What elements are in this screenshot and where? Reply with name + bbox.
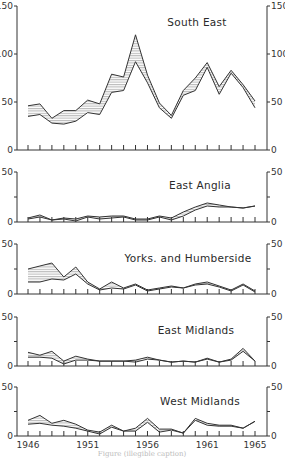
upper-series-line: [28, 203, 255, 220]
y-tick-label-right: 0: [271, 217, 277, 227]
y-tick-label-right: 50: [271, 97, 283, 107]
x-tick-label: 1956: [136, 440, 159, 450]
y-tick-label-left: 0: [7, 145, 13, 155]
x-tick-label: 1961: [196, 440, 219, 450]
y-tick-label-right: 50: [271, 382, 283, 392]
y-tick-label-right: 0: [271, 361, 277, 371]
panel-title: South East: [167, 16, 227, 28]
panel-east-midlands: 005050East Midlands: [2, 312, 283, 371]
y-tick-label-right: 100: [271, 49, 285, 59]
x-axis-year-labels: 19461951195619611965: [17, 440, 267, 450]
y-tick-label-right: 50: [271, 167, 283, 177]
y-tick-label-left: 50: [2, 167, 14, 177]
upper-series-line: [28, 35, 255, 119]
figure-caption: Figure (illegible caption): [98, 450, 187, 458]
y-tick-label-left: 50: [2, 97, 14, 107]
panel-south-east: 005050100100150150South East: [0, 1, 285, 155]
y-tick-label-right: 0: [271, 289, 277, 299]
y-tick-label-right: 150: [271, 1, 285, 11]
y-tick-label-left: 0: [7, 289, 13, 299]
y-tick-label-left: 0: [7, 431, 13, 441]
panel-yorks-and-humberside: 005050Yorks. and Humberside: [2, 239, 283, 299]
panel-title: Yorks. and Humberside: [123, 252, 251, 264]
x-tick-label: 1946: [17, 440, 40, 450]
y-tick-label-right: 0: [271, 431, 277, 441]
y-tick-label-left: 150: [0, 1, 13, 11]
panel-west-midlands: 005050West Midlands: [2, 382, 283, 441]
x-tick-label: 1965: [244, 440, 267, 450]
panel-title: East Midlands: [158, 324, 235, 336]
panel-east-anglia: 005050East Anglia: [2, 167, 283, 227]
y-tick-label-left: 0: [7, 361, 13, 371]
y-tick-label-right: 0: [271, 145, 277, 155]
stacked-regional-charts: 005050100100150150South East005050East A…: [0, 0, 285, 459]
panel-title: West Midlands: [160, 395, 240, 407]
panel-title: East Anglia: [169, 179, 231, 191]
y-tick-label-right: 50: [271, 239, 283, 249]
y-tick-label-left: 50: [2, 382, 14, 392]
y-tick-label-left: 100: [0, 49, 13, 59]
y-tick-label-right: 50: [271, 312, 283, 322]
hatched-range-band: [28, 35, 255, 124]
x-tick-label: 1951: [76, 440, 99, 450]
y-tick-label-left: 50: [2, 312, 14, 322]
y-tick-label-left: 0: [7, 217, 13, 227]
y-tick-label-left: 50: [2, 239, 14, 249]
